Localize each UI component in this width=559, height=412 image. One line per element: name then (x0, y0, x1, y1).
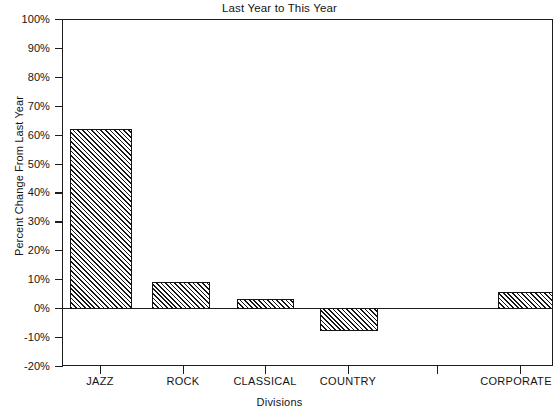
y-axis-label: 60% (0, 129, 50, 141)
y-tick (55, 221, 63, 222)
y-tick (55, 164, 63, 165)
x-tick (100, 366, 101, 374)
x-axis-label-country: COUNTRY (303, 375, 393, 387)
bar-country (320, 308, 378, 331)
x-tick (520, 366, 521, 374)
bar-chart: Division Performance Last Year to This Y… (0, 0, 559, 412)
x-axis-title: Divisions (0, 396, 559, 408)
y-axis-label: 10% (0, 273, 50, 285)
y-tick (55, 366, 63, 367)
y-axis-label: 30% (0, 215, 50, 227)
x-axis-label-corporate: CORPORATE (470, 375, 559, 387)
y-axis-label: 90% (0, 42, 50, 54)
bar-corporate (498, 292, 553, 309)
y-tick (55, 279, 63, 280)
y-tick (55, 308, 63, 309)
bar-rock (152, 282, 210, 309)
x-tick (348, 366, 349, 374)
y-axis-label: 80% (0, 71, 50, 83)
y-axis-title: Percent Change From Last Year (13, 61, 25, 291)
y-tick (55, 135, 63, 136)
zero-baseline (62, 308, 553, 309)
x-axis-label-rock: ROCK (143, 375, 223, 387)
x-axis-label-jazz: JAZZ (60, 375, 140, 387)
y-axis-label: 0% (0, 302, 50, 314)
y-axis-label: 50% (0, 158, 50, 170)
y-tick (55, 106, 63, 107)
bar-jazz (70, 129, 132, 309)
y-tick (55, 337, 63, 338)
x-tick (265, 366, 266, 374)
y-tick (55, 48, 63, 49)
y-axis-label: 100% (0, 13, 50, 25)
y-axis-label: 40% (0, 186, 50, 198)
x-axis-label-classical: CLASSICAL (215, 375, 315, 387)
y-axis-label: -10% (0, 331, 50, 343)
y-tick (55, 192, 63, 193)
y-tick (55, 19, 63, 20)
y-axis-label: 70% (0, 100, 50, 112)
y-tick (55, 77, 63, 78)
x-tick (437, 366, 438, 374)
chart-subtitle: Last Year to This Year (0, 2, 559, 14)
y-axis-label: 20% (0, 244, 50, 256)
bar-classical (237, 299, 294, 309)
y-tick (55, 250, 63, 251)
x-tick (183, 366, 184, 374)
y-axis-label: -20% (0, 360, 50, 372)
plot-area (62, 19, 553, 366)
